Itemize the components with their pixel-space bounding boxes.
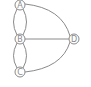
edge-c-d	[25, 42, 70, 72]
node-d-label: D	[71, 35, 77, 44]
node-a-label: A	[17, 1, 23, 10]
node-b: B	[15, 34, 25, 44]
graph-diagram: A B C D	[0, 0, 91, 87]
edge-a-b-2	[23, 9, 27, 35]
edge-b-c-2	[23, 43, 27, 68]
node-c-label: C	[17, 68, 23, 77]
edge-a-d	[25, 4, 70, 36]
node-c: C	[15, 67, 25, 77]
edge-a-b-1	[14, 9, 18, 35]
node-b-label: B	[17, 35, 23, 44]
edge-b-c-1	[14, 43, 18, 68]
node-d: D	[69, 34, 79, 44]
node-a: A	[15, 0, 25, 10]
